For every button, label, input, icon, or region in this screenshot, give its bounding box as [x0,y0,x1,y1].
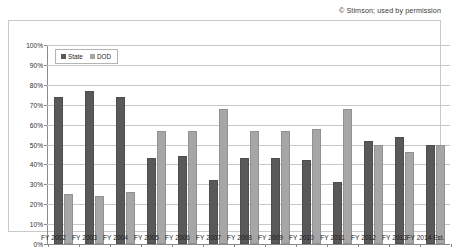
y-axis-tick-mark [44,164,47,165]
bar-group [265,45,296,244]
bar-dod-fy-2005 [157,131,166,244]
x-axis-tick-label: FY 2013 [382,234,407,241]
y-axis-tick-mark [44,204,47,205]
bar-group [79,45,110,244]
y-axis-tick-label: 10% [30,221,43,228]
bar-group [327,45,358,244]
bar-state-fy-2014-est- [426,145,435,245]
bar-group [234,45,265,244]
y-axis-tick-mark [44,125,47,126]
x-axis-tick-label: FY 2005 [134,234,159,241]
bar-state-fy-2002 [54,97,63,244]
bar-dod-fy-2006 [188,131,197,244]
bar-dod-fy-2010 [312,129,321,244]
bar-state-fy-2008 [240,158,249,244]
bar-dod-fy-2012 [374,145,383,245]
bar-group [110,45,141,244]
bar-group [296,45,327,244]
bar-dod-fy-2013 [405,152,414,244]
y-axis-tick-label: 20% [30,201,43,208]
x-axis-tick-label: FY 2010 [289,234,314,241]
y-axis-tick-label: 70% [30,101,43,108]
x-axis-tick-label: FY 2011 [320,234,344,241]
y-axis-tick-label: 40% [30,161,43,168]
attribution-text: © Stimson; used by permission [339,6,441,15]
y-axis-tick-label: 30% [30,181,43,188]
x-axis-labels: FY 2002FY 2003FY 2004FY 2005FY 2006FY 20… [38,234,441,248]
bar-group [358,45,389,244]
x-axis-tick-label: FY 2014 Est. [407,234,445,241]
legend-entry-dod: DOD [90,53,111,60]
y-axis-tick-mark [44,65,47,66]
legend-entry-state: State [61,53,83,60]
x-axis-tick-label: FY 2004 [103,234,128,241]
bar-group [172,45,203,244]
legend-label-dod: DOD [97,53,111,60]
bar-state-fy-2010 [302,160,311,244]
x-axis-tick-label: FY 2009 [258,234,283,241]
bar-state-fy-2013 [395,137,404,244]
bar-group [48,45,79,244]
bar-state-fy-2006 [178,156,187,244]
bar-state-fy-2009 [271,158,280,244]
bar-state-fy-2003 [85,91,94,244]
bars-layer [48,45,450,244]
bar-dod-fy-2014-est- [436,145,445,245]
bar-state-fy-2012 [364,141,373,244]
y-axis-tick-label: 50% [30,141,43,148]
y-axis-tick-label: 100% [26,42,43,49]
chart-plot-frame: 0%10%20%30%40%50%60%70%80%90%100% State … [8,20,441,232]
bar-group [389,45,420,244]
bar-group [141,45,172,244]
x-axis-tick-label: FY 2008 [227,234,252,241]
chart-legend: State DOD [55,49,118,64]
bar-state-fy-2005 [147,158,156,244]
plot-area: 0%10%20%30%40%50%60%70%80%90%100% [47,45,450,244]
y-axis-tick-label: 80% [30,81,43,88]
legend-swatch-state-icon [61,54,66,59]
legend-swatch-dod-icon [90,54,95,59]
bar-dod-fy-2008 [250,131,259,244]
y-axis-tick-mark [44,184,47,185]
bar-group [203,45,234,244]
legend-label-state: State [68,53,83,60]
x-axis-tick-label: FY 2012 [351,234,376,241]
bar-group [420,45,451,244]
x-axis-tick-label: FY 2002 [41,234,66,241]
bar-state-fy-2004 [116,97,125,244]
y-axis-tick-mark [44,105,47,106]
bar-dod-fy-2011 [343,109,352,244]
y-axis-tick-mark [44,224,47,225]
y-axis-tick-label: 60% [30,121,43,128]
x-axis-tick-label: FY 2007 [196,234,221,241]
bar-dod-fy-2009 [281,131,290,244]
y-axis-tick-label: 90% [30,61,43,68]
x-axis-tick-label: FY 2003 [72,234,97,241]
y-axis-tick-mark [44,85,47,86]
y-axis-tick-mark [44,145,47,146]
y-axis-tick-mark [44,45,47,46]
bar-dod-fy-2007 [219,109,228,244]
x-axis-tick-label: FY 2006 [165,234,190,241]
